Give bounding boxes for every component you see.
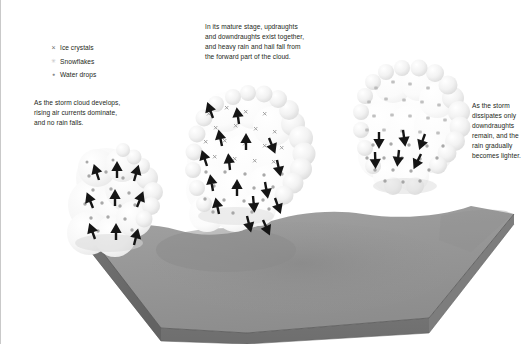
thunderstorm-diagram: × Ice crystals ✳ Snowflakes ● Water drop… (0, 0, 532, 344)
caption-mature-stage: In its mature stage, updraughts and down… (205, 22, 357, 62)
water-drop-icon: ● (47, 72, 60, 77)
legend-item-water-drops: ● Water drops (47, 68, 96, 82)
legend-label-water-drops: Water drops (60, 71, 96, 78)
legend-item-snowflakes: ✳ Snowflakes (47, 55, 96, 69)
caption-dissipating-stage: As the storm dissipates only downdraught… (472, 101, 530, 162)
cloud-mature (185, 85, 316, 235)
snowflake-icon: ✳ (47, 58, 60, 64)
legend: × Ice crystals ✳ Snowflakes ● Water drop… (47, 41, 96, 82)
ground-depression-shading-2 (156, 228, 296, 272)
legend-label-ice-crystals: Ice crystals (60, 44, 94, 51)
cloud-mature-base-shadow (198, 207, 274, 225)
legend-item-ice-crystals: × Ice crystals (47, 41, 96, 55)
ground-slab (87, 206, 514, 344)
ice-crystal-icon: × (47, 44, 60, 51)
caption-developing-stage: As the storm cloud develops, rising air … (34, 98, 162, 128)
cloud-dissipating (353, 60, 471, 196)
legend-label-snowflakes: Snowflakes (60, 58, 94, 65)
cloud-dissipating-base-shadow (373, 178, 437, 194)
